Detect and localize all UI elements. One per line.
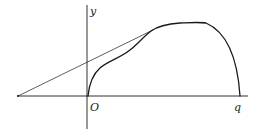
diagram-canvas: y O q [0,0,259,137]
q-label: q [234,101,241,114]
y-axis-label: y [89,5,97,18]
tangent-line [18,30,153,96]
origin-label: O [90,101,99,114]
main-curve [88,22,240,96]
